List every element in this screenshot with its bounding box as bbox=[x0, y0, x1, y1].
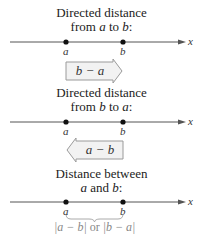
number-line-2 bbox=[10, 119, 186, 124]
point-b-dot bbox=[120, 39, 125, 44]
number-line-diagram bbox=[0, 0, 203, 237]
x-axis-label: x bbox=[188, 35, 193, 47]
point-b-label: b bbox=[120, 205, 126, 217]
number-line-1 bbox=[10, 39, 186, 44]
absolute-distance-expression: |a − b| or |b − a| bbox=[54, 220, 135, 235]
point-a-label: a bbox=[63, 205, 69, 217]
point-b-label: b bbox=[120, 45, 126, 57]
x-axis-label: x bbox=[188, 195, 193, 207]
point-a-dot bbox=[63, 39, 68, 44]
expression-a-minus-b: a − b bbox=[76, 142, 124, 158]
x-axis-label: x bbox=[188, 115, 193, 127]
point-a-label: a bbox=[63, 45, 69, 57]
number-line-3 bbox=[10, 199, 186, 204]
expression-b-minus-a: b − a bbox=[66, 63, 114, 79]
point-b-label: b bbox=[120, 125, 126, 137]
point-a-label: a bbox=[63, 125, 69, 137]
